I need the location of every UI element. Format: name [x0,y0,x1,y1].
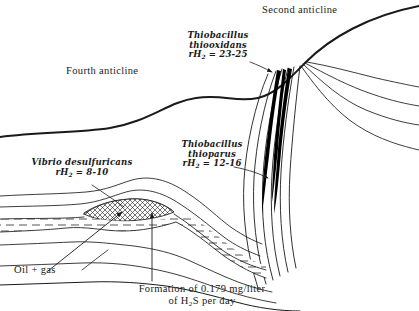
leader-thiooxidans [250,62,272,72]
desulfuricans-rh2-prefix: rH [56,167,69,177]
thiooxidans-rh2-prefix: rH [188,49,201,59]
annotation-vibrio-desulfuricans: Vibrio desulfuricans rH2 = 8-10 [24,158,140,178]
formation-line-2: of H2S per day [96,295,308,308]
label-oil-gas: Oil + gas [14,264,56,276]
desulfuricans-genus: Vibrio [32,157,62,167]
thiooxidans-rh2: rH2 = 23-25 [172,50,264,60]
thioparus-rh2: rH2 = 12-16 [168,159,256,169]
thiooxidans-rh2-subscript: 2 [201,54,205,60]
stratum-right-3 [303,64,419,125]
thiooxidans-rh2-value: = 23-25 [209,49,248,59]
annotation-thiobacillus-thioparus: Thiobacillus thioparus rH2 = 12-16 [168,140,256,169]
formation-line-1: Formation of 0.179 mg/liter [96,283,308,295]
annotation-thiobacillus-thiooxidans: Thiobacillus thiooxidans rH2 = 23-25 [172,31,264,60]
formation-line-2-pre: of H [168,295,188,306]
thioparus-rh2-subscript: 2 [195,163,199,169]
ground-surface-line [0,6,419,137]
fault-stratum-a [289,66,300,268]
annotation-h2s-formation-rate: Formation of 0.179 mg/liter of H2S per d… [96,283,308,308]
desulfuricans-rh2-subscript: 2 [68,171,72,177]
formation-line-2-post: S per day [193,295,236,306]
thioparus-rh2-prefix: rH [182,158,195,168]
figure-canvas: Fourth anticline Second anticline Oil + … [0,0,419,311]
cap-rock-lens [84,199,174,221]
label-fourth-anticline: Fourth anticline [66,65,138,77]
leader-oil-gas [82,250,108,270]
stratum-right-2 [305,63,419,106]
desulfuricans-rh2: rH2 = 8-10 [24,168,140,178]
desulfuricans-species: desulfuricans [65,157,132,167]
desulfuricans-rh2-value: = 8-10 [76,167,109,177]
thioparus-rh2-value: = 12-16 [203,158,242,168]
label-second-anticline: Second anticline [262,4,337,16]
